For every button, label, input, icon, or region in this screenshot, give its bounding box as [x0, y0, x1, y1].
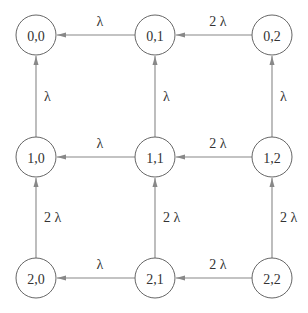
arrowhead-icon	[34, 56, 39, 65]
arrowhead-icon	[153, 56, 158, 65]
state-node-00: 0,0	[16, 15, 56, 55]
arrowhead-icon	[176, 155, 185, 160]
arrowhead-icon	[176, 33, 185, 38]
arrowhead-icon	[57, 155, 66, 160]
edge-rate-label: 2 λ	[163, 210, 181, 225]
edge-21-to-11: 2 λ	[153, 178, 181, 258]
edge-rate-label: λ	[163, 89, 170, 104]
edge-rate-label: λ	[97, 136, 104, 151]
state-node-22: 2,2	[252, 258, 292, 298]
state-node-12: 1,2	[252, 137, 292, 177]
state-node-21: 2,1	[135, 258, 175, 298]
arrowhead-icon	[176, 276, 185, 281]
arrowhead-icon	[34, 178, 39, 187]
state-label: 0,2	[263, 29, 281, 44]
state-label: 2,1	[146, 272, 164, 287]
state-diagram: λ2 λλ2 λλ2 λλλλ2 λ2 λ2 λ 0,00,10,21,01,1…	[0, 0, 308, 313]
state-node-20: 2,0	[16, 258, 56, 298]
state-label: 1,2	[263, 151, 281, 166]
arrowhead-icon	[57, 276, 66, 281]
edge-rate-label: λ	[97, 257, 104, 272]
state-label: 1,0	[27, 151, 45, 166]
arrowhead-icon	[57, 33, 66, 38]
edge-rate-label: 2 λ	[44, 210, 62, 225]
edge-rate-label: 2 λ	[209, 136, 227, 151]
edge-22-to-12: 2 λ	[270, 178, 298, 258]
edge-rate-label: 2 λ	[280, 210, 298, 225]
edge-rate-label: 2 λ	[209, 257, 227, 272]
state-node-01: 0,1	[135, 15, 175, 55]
arrowhead-icon	[153, 178, 158, 187]
edge-20-to-10: 2 λ	[34, 178, 62, 258]
state-label: 2,0	[27, 272, 45, 287]
state-node-02: 0,2	[252, 15, 292, 55]
edge-rate-label: 2 λ	[209, 14, 227, 29]
edge-rate-label: λ	[97, 14, 104, 29]
arrowhead-icon	[270, 178, 275, 187]
edge-01-to-00: λ	[57, 14, 135, 38]
state-node-10: 1,0	[16, 137, 56, 177]
edge-12-to-11: 2 λ	[176, 136, 252, 160]
state-node-11: 1,1	[135, 137, 175, 177]
edge-12-to-02: λ	[270, 56, 288, 137]
state-label: 2,2	[263, 272, 281, 287]
state-label: 1,1	[146, 151, 164, 166]
state-label: 0,1	[146, 29, 164, 44]
edge-22-to-21: 2 λ	[176, 257, 252, 281]
edge-11-to-10: λ	[57, 136, 135, 160]
arrowhead-icon	[270, 56, 275, 65]
state-label: 0,0	[27, 29, 45, 44]
edge-02-to-01: 2 λ	[176, 14, 252, 38]
edge-21-to-20: λ	[57, 257, 135, 281]
edge-rate-label: λ	[280, 89, 287, 104]
edge-11-to-01: λ	[153, 56, 171, 137]
edge-10-to-00: λ	[34, 56, 52, 137]
edge-rate-label: λ	[44, 89, 51, 104]
